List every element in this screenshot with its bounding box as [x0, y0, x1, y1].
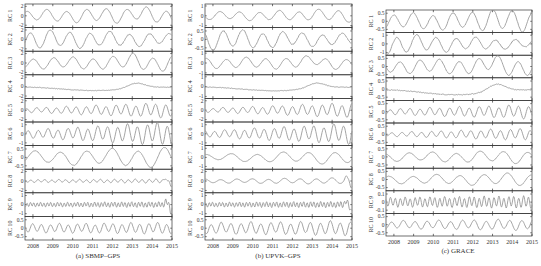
y-tick-label: 2: [21, 98, 24, 104]
subplot-label: RC 9: [368, 196, 374, 209]
subplot-label: RC 3: [368, 60, 374, 73]
x-tick-label: 2011: [447, 239, 459, 245]
subplot-label: RC 7: [187, 151, 193, 164]
y-tick-label: 0: [382, 63, 385, 69]
y-tick-label: 0: [21, 60, 24, 66]
y-tick-label: 0: [382, 131, 385, 137]
y-tick-label: 2: [21, 168, 24, 174]
rc-series-line: [386, 151, 532, 163]
y-tick-label: 1: [21, 122, 24, 128]
subplot-label: RC 1: [7, 10, 13, 23]
rc-series-line: [205, 9, 352, 22]
x-tick-label: 2015: [166, 243, 178, 249]
y-tick-label: 0.5: [197, 28, 204, 34]
rc-series-line: [386, 34, 532, 54]
subplot-rc1: 20-2RC 1: [7, 3, 172, 28]
y-tick-label: 0.5: [197, 217, 204, 223]
subplot-rc8: 0.50-0.5RC 8: [368, 168, 532, 191]
x-tick-label: 2012: [286, 243, 298, 249]
y-tick-label: 2: [201, 98, 204, 104]
x-tick-label: 2010: [247, 243, 259, 249]
subplot-label: RC 9: [7, 198, 13, 211]
subplot-label: RC 6: [187, 128, 193, 141]
y-tick-label: 1: [201, 50, 204, 56]
rc-series-line: [205, 176, 352, 188]
rc-series-line: [25, 179, 172, 187]
y-tick-label: -0.5: [195, 233, 204, 239]
subplot-label: RC 2: [187, 33, 193, 46]
y-tick-label: 0: [21, 83, 24, 89]
y-tick-label: 0.5: [378, 10, 385, 16]
y-tick-label: -0.5: [376, 117, 385, 123]
subplot-rc7: 0.50-0.5RC 7: [368, 146, 532, 169]
x-tick-label: 2008: [388, 239, 400, 245]
subplot-rc2: 0.50-0.5RC 2: [187, 28, 352, 52]
rc-series-line: [386, 84, 532, 95]
rc-series-line: [205, 221, 352, 236]
subplot-label: RC 1: [368, 15, 374, 28]
y-tick-label: 0: [21, 154, 24, 160]
y-tick-label: -0.1: [376, 207, 385, 213]
y-tick-label: 1: [382, 32, 385, 38]
x-tick-label: 2014: [506, 239, 518, 245]
subplot-label: RC 4: [368, 83, 374, 96]
y-tick-label: 0: [201, 107, 204, 113]
y-tick-label: 0: [201, 60, 204, 66]
subplot-rc3: 0.50-0.5RC 3: [368, 55, 532, 78]
x-tick-label: 2013: [126, 243, 138, 249]
rc-series-line: [25, 123, 172, 145]
rc-series-line: [25, 199, 172, 214]
rc-series-line: [386, 56, 532, 76]
y-tick-label: 0: [382, 199, 385, 205]
x-tick-label: 2014: [146, 243, 158, 249]
caption-panel-b: (b) UPVK–GPS: [228, 252, 328, 260]
y-tick-label: -0.5: [376, 71, 385, 77]
reconstructed-components-figure: 20-2RC 120-2RC 220-2RC 320-2RC 420-2RC 5…: [0, 0, 541, 266]
subplot-label: RC 2: [368, 38, 374, 51]
rc-series-line: [25, 7, 172, 23]
y-tick-label: 1: [201, 3, 204, 9]
y-tick-label: 0.5: [378, 168, 385, 174]
panel-c: 0.50-0.5RC 110-1RC 20.50-0.5RC 30.50-0.5…: [368, 10, 538, 245]
y-tick-label: -0.5: [15, 233, 24, 239]
rc-series-line: [205, 83, 352, 91]
y-tick-label: 0.5: [378, 78, 385, 84]
y-tick-label: 0: [382, 222, 385, 228]
x-tick-label: 2008: [207, 243, 219, 249]
subplot-rc7: 10-1RC 7: [187, 145, 352, 169]
rc-series-line: [25, 83, 172, 91]
subplot-label: RC 1: [187, 10, 193, 23]
y-tick-label: -0.5: [376, 230, 385, 236]
y-tick-label: 0: [201, 83, 204, 89]
subplot-label: RC 5: [368, 105, 374, 118]
rc-series-line: [25, 103, 172, 118]
x-tick-label: 2015: [526, 239, 538, 245]
subplot-label: RC 7: [7, 151, 13, 164]
x-tick-label: 2010: [67, 243, 79, 249]
x-tick-label: 2008: [27, 243, 39, 249]
subplot-rc10: 0.50-0.5RC 10: [187, 216, 352, 240]
y-tick-label: 2: [21, 74, 24, 80]
caption-panel-c: (c) GRACE: [408, 247, 508, 255]
subplot-rc2: 10-1RC 2: [368, 32, 532, 55]
rc-series-line: [386, 129, 532, 140]
y-tick-label: 0.5: [378, 123, 385, 129]
y-tick-label: 2: [21, 50, 24, 56]
x-tick-label: 2012: [106, 243, 118, 249]
y-tick-label: 0.5: [17, 146, 24, 152]
subplot-label: RC 7: [368, 151, 374, 164]
subplot-label: RC 5: [187, 104, 193, 117]
y-tick-label: 0: [382, 154, 385, 160]
subplot-rc6: 10-1RC 6: [187, 122, 352, 146]
y-tick-label: -1: [199, 210, 204, 216]
y-tick-label: 0.1: [378, 191, 385, 197]
rc-series-line: [386, 173, 532, 186]
x-tick-label: 2014: [326, 243, 338, 249]
y-tick-label: 2: [21, 3, 24, 9]
y-tick-label: 0: [201, 201, 204, 207]
x-tick-label: 2010: [427, 239, 439, 245]
x-tick-label: 2013: [306, 243, 318, 249]
y-tick-label: 0: [21, 36, 24, 42]
rc-series-line: [386, 11, 532, 32]
rc-series-line: [386, 196, 532, 209]
